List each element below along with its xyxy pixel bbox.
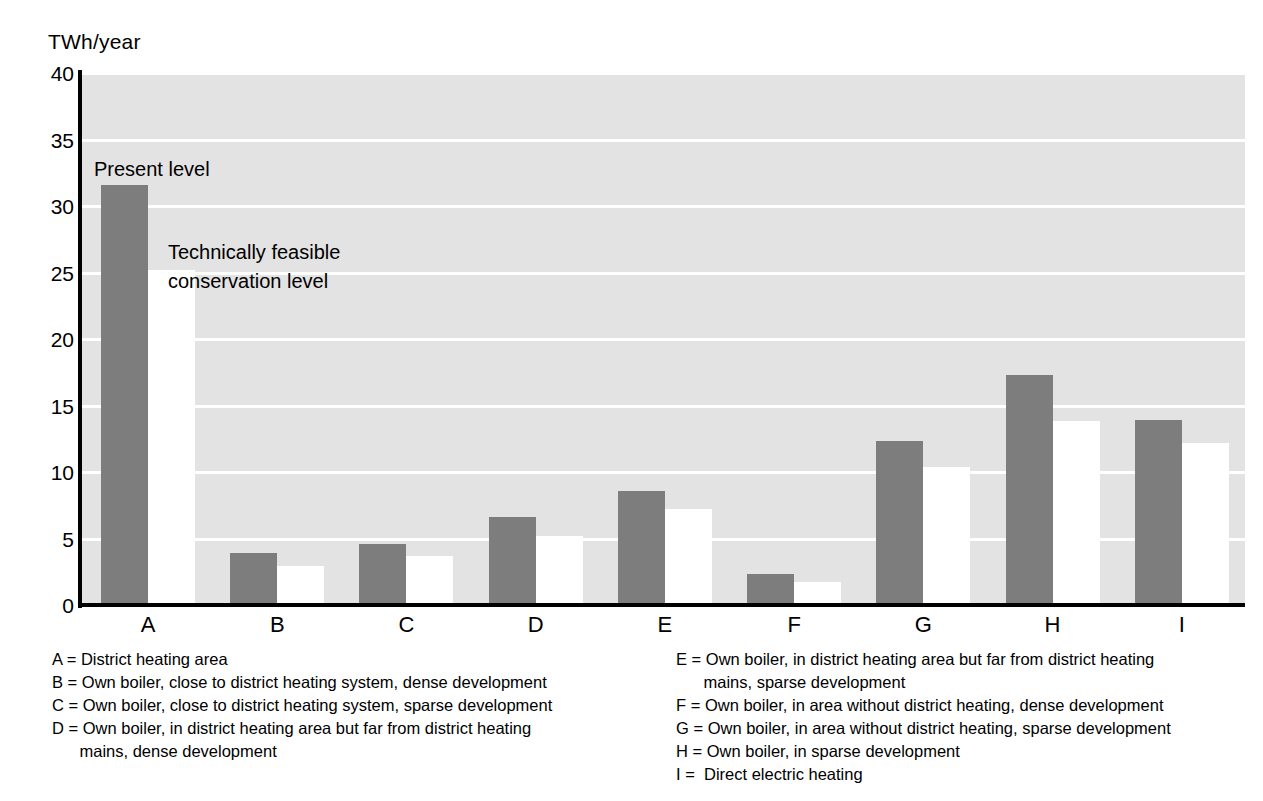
x-axis-label-a: A bbox=[118, 612, 178, 638]
bar-group-f bbox=[728, 73, 857, 605]
x-axis-label-g: G bbox=[893, 612, 953, 638]
x-axis-label-e: E bbox=[635, 612, 695, 638]
bar-group-e bbox=[599, 73, 728, 605]
bar-present-i bbox=[1135, 420, 1182, 605]
x-axis-label-h: H bbox=[1023, 612, 1083, 638]
bar-present-g bbox=[876, 441, 923, 605]
y-axis-tick-30: 30 bbox=[34, 196, 74, 217]
x-axis-line bbox=[78, 603, 1245, 607]
bar-group-g bbox=[857, 73, 986, 605]
y-axis-tick-5: 5 bbox=[34, 528, 74, 549]
y-axis-tick-20: 20 bbox=[34, 329, 74, 350]
y-axis-tick-35: 35 bbox=[34, 129, 74, 150]
bar-present-c bbox=[359, 544, 406, 605]
annotation-feasible-level: Technically feasible conservation level bbox=[168, 238, 340, 296]
legend-item-right-0: E = Own boiler, in district heating area… bbox=[676, 648, 1256, 694]
y-axis-tick-0: 0 bbox=[34, 595, 74, 616]
x-axis-label-i: I bbox=[1152, 612, 1212, 638]
chart-figure: TWh/year 4035302520151050 ABCDEFGHI Pres… bbox=[0, 0, 1263, 801]
y-axis-line bbox=[78, 70, 82, 608]
legend-item-right-2: G = Own boiler, in area without district… bbox=[676, 717, 1256, 740]
y-axis-unit-label: TWh/year bbox=[48, 30, 141, 54]
bar-feasible-d bbox=[536, 536, 583, 605]
bar-feasible-a bbox=[148, 270, 195, 605]
plot-area bbox=[82, 73, 1245, 605]
bar-group-h bbox=[987, 73, 1116, 605]
x-axis-label-f: F bbox=[764, 612, 824, 638]
legend-item-left-3: D = Own boiler, in district heating area… bbox=[52, 717, 672, 763]
y-axis-tick-15: 15 bbox=[34, 395, 74, 416]
bar-present-e bbox=[618, 491, 665, 605]
bar-group-a bbox=[82, 73, 211, 605]
bar-present-d bbox=[489, 517, 536, 605]
y-axis-tick-40: 40 bbox=[34, 63, 74, 84]
legend-item-right-3: H = Own boiler, in sparse development bbox=[676, 740, 1256, 763]
x-axis-label-c: C bbox=[376, 612, 436, 638]
bar-group-i bbox=[1116, 73, 1245, 605]
bar-feasible-h bbox=[1053, 421, 1100, 605]
y-axis-tick-10: 10 bbox=[34, 462, 74, 483]
annotation-feasible-line2: conservation level bbox=[168, 267, 340, 296]
y-axis-tick-25: 25 bbox=[34, 262, 74, 283]
annotation-present-level: Present level bbox=[94, 155, 210, 184]
legend-item-left-1: B = Own boiler, close to district heatin… bbox=[52, 671, 672, 694]
x-axis-label-b: B bbox=[247, 612, 307, 638]
bar-feasible-b bbox=[277, 566, 324, 605]
bar-feasible-e bbox=[665, 509, 712, 605]
bar-feasible-i bbox=[1182, 443, 1229, 605]
legend-column-left: A = District heating areaB = Own boiler,… bbox=[52, 648, 672, 763]
bar-feasible-c bbox=[406, 556, 453, 605]
x-axis-label-d: D bbox=[506, 612, 566, 638]
legend-item-left-0: A = District heating area bbox=[52, 648, 672, 671]
annotation-feasible-line1: Technically feasible bbox=[168, 238, 340, 267]
bar-present-b bbox=[230, 553, 277, 605]
bar-group-d bbox=[470, 73, 599, 605]
legend-item-right-4: I = Direct electric heating bbox=[676, 763, 1256, 786]
legend-column-right: E = Own boiler, in district heating area… bbox=[676, 648, 1256, 787]
bar-present-h bbox=[1006, 375, 1053, 605]
bar-group-c bbox=[340, 73, 469, 605]
bar-feasible-g bbox=[923, 467, 970, 605]
legend-item-left-2: C = Own boiler, close to district heatin… bbox=[52, 694, 672, 717]
bar-present-f bbox=[747, 574, 794, 605]
bar-group-b bbox=[211, 73, 340, 605]
bar-present-a bbox=[101, 185, 148, 605]
bar-feasible-f bbox=[794, 582, 841, 605]
legend-item-right-1: F = Own boiler, in area without district… bbox=[676, 694, 1256, 717]
